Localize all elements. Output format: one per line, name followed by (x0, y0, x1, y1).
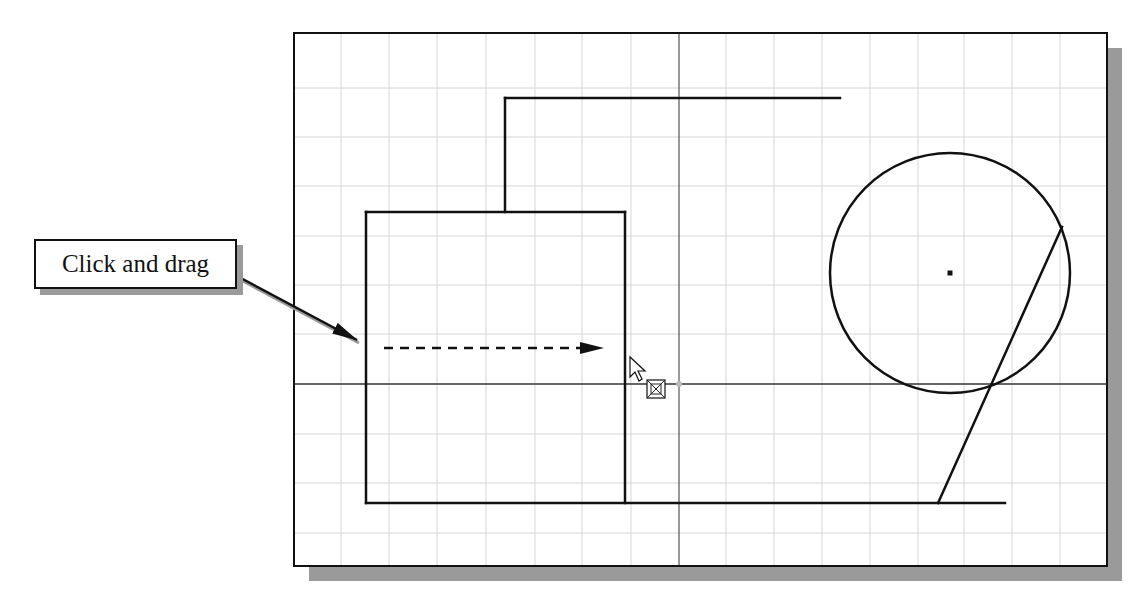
callout-label: Click and drag (62, 250, 209, 278)
viewport-background (294, 33, 1107, 566)
callout-click-and-drag: Click and drag (34, 239, 237, 289)
circle-center-marker (948, 271, 953, 276)
snap-point-marker (676, 381, 682, 387)
move-cursor-icon (647, 380, 665, 398)
cad-drawing-canvas[interactable] (0, 0, 1143, 603)
